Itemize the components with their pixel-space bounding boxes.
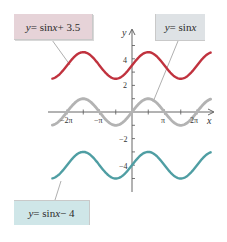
label-eq: = sin [31, 21, 53, 33]
label-rest: + 3.5 [57, 21, 80, 33]
x-tick-label-pi: π [161, 116, 165, 125]
x-tick-label-2pi: 2π [190, 116, 198, 125]
label-var: x [191, 21, 196, 33]
y-tick-label-2: 2 [123, 81, 127, 90]
equation-label-sin-plus-3-5: y = sin x + 3.5 [14, 14, 93, 40]
x-tick-label-neg-pi: −π [94, 116, 103, 125]
y-tick-label-neg-2: −2 [119, 135, 128, 144]
leader-line-top-left [52, 40, 70, 65]
x-axis-label: x [206, 115, 212, 126]
y-axis-label: y [121, 27, 127, 38]
label-eq: = sin [33, 207, 55, 219]
equation-label-sin-minus-4: y = sin x − 4 [14, 200, 90, 225]
x-tick-label-neg-2pi: −2π [60, 116, 73, 125]
curve-sin-plus-3-5 [52, 52, 210, 79]
label-eq: = sin [170, 21, 192, 33]
leader-line-top-right [153, 41, 178, 102]
curve-sin-minus-4 [52, 152, 210, 179]
y-tick-label-4: 4 [123, 56, 127, 65]
label-rest: − 4 [60, 207, 74, 219]
leader-line-bottom-left [55, 181, 61, 200]
equation-label-sin: y = sin x [155, 14, 205, 41]
y-tick-label-neg-4: −4 [119, 162, 128, 171]
